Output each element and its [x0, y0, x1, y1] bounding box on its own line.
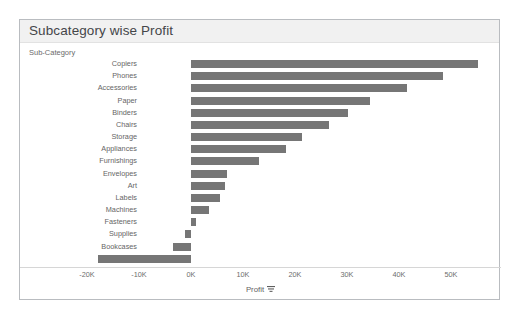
- x-axis-tick-label: -20K: [79, 270, 94, 279]
- bar-row: Chairs: [20, 119, 501, 131]
- bar-row: Art: [20, 180, 501, 192]
- bar-storage[interactable]: [191, 133, 302, 141]
- bar-row: Storage: [20, 131, 501, 143]
- bar-row: Binders: [20, 107, 501, 119]
- bar-category-label: Storage: [111, 132, 137, 141]
- dimension-field-label: Sub-Category: [29, 48, 75, 57]
- bar-fasteners[interactable]: [191, 218, 196, 226]
- top-edge-artifact: [0, 0, 517, 6]
- bar-row: Machines: [20, 204, 501, 216]
- bar-bookcases[interactable]: [173, 243, 191, 251]
- bar-appliances[interactable]: [191, 145, 286, 153]
- bar-row: Fasteners: [20, 216, 501, 228]
- bar-category-label: Binders: [112, 108, 137, 117]
- x-axis: Profit -20K-10K0K10K20K30K40K50K: [20, 267, 501, 301]
- x-axis-tick-label: -10K: [131, 270, 146, 279]
- bar-category-label: Paper: [118, 96, 137, 105]
- x-axis-tick-label: 50K: [445, 270, 458, 279]
- bar-art[interactable]: [191, 182, 225, 190]
- bar-supplies[interactable]: [185, 230, 191, 238]
- bar-row: Copiers: [20, 58, 501, 70]
- bar-row: Supplies: [20, 228, 501, 240]
- bar-category-label: Labels: [115, 193, 137, 202]
- bar-chart-plot-area: CopiersPhonesAccessoriesPaperBindersChai…: [20, 58, 501, 268]
- bar-furnishings[interactable]: [191, 157, 259, 165]
- bar-row: Labels: [20, 192, 501, 204]
- bar-category-label: Art: [128, 181, 137, 190]
- bar-envelopes[interactable]: [191, 170, 227, 178]
- bar-row: Accessories: [20, 82, 501, 94]
- bar-chairs[interactable]: [191, 121, 329, 129]
- bar-tables[interactable]: [98, 255, 191, 263]
- bar-category-label: Furnishings: [99, 156, 137, 165]
- visualization-title-bar: Subcategory wise Profit: [20, 20, 499, 43]
- bar-binders[interactable]: [191, 109, 348, 117]
- x-axis-tick-label: 0K: [187, 270, 196, 279]
- bar-row: Envelopes: [20, 168, 501, 180]
- page-title: Subcategory wise Profit: [29, 23, 173, 38]
- bar-row: Bookcases: [20, 241, 501, 253]
- bar-category-label: Appliances: [101, 144, 137, 153]
- x-axis-title-text: Profit: [246, 285, 264, 294]
- bar-category-label: Bookcases: [101, 242, 137, 251]
- bar-row: Tables: [20, 253, 501, 265]
- bar-row: Appliances: [20, 143, 501, 155]
- sort-descending-icon[interactable]: [267, 285, 275, 295]
- bar-category-label: Copiers: [112, 59, 137, 68]
- bar-accessories[interactable]: [191, 84, 407, 92]
- bar-machines[interactable]: [191, 206, 209, 214]
- x-axis-line: [20, 267, 501, 268]
- bar-copiers[interactable]: [191, 60, 478, 68]
- bar-category-label: Accessories: [98, 83, 137, 92]
- x-axis-title: Profit: [20, 285, 501, 295]
- bar-category-label: Envelopes: [103, 169, 137, 178]
- bar-phones[interactable]: [191, 72, 443, 80]
- bar-category-label: Chairs: [116, 120, 137, 129]
- bar-category-label: Supplies: [109, 229, 137, 238]
- x-axis-tick-label: 40K: [393, 270, 406, 279]
- bar-category-label: Fasteners: [105, 217, 137, 226]
- bar-category-label: Machines: [106, 205, 137, 214]
- x-axis-tick-label: 30K: [341, 270, 354, 279]
- bar-row: Furnishings: [20, 155, 501, 167]
- bar-labels[interactable]: [191, 194, 220, 202]
- bar-paper[interactable]: [191, 97, 370, 105]
- x-axis-tick-label: 20K: [289, 270, 302, 279]
- bar-category-label: Phones: [112, 71, 137, 80]
- bar-row: Paper: [20, 95, 501, 107]
- bar-row: Phones: [20, 70, 501, 82]
- visualization-frame: Subcategory wise Profit Sub-Category Cop…: [19, 19, 500, 300]
- x-axis-tick-label: 10K: [237, 270, 250, 279]
